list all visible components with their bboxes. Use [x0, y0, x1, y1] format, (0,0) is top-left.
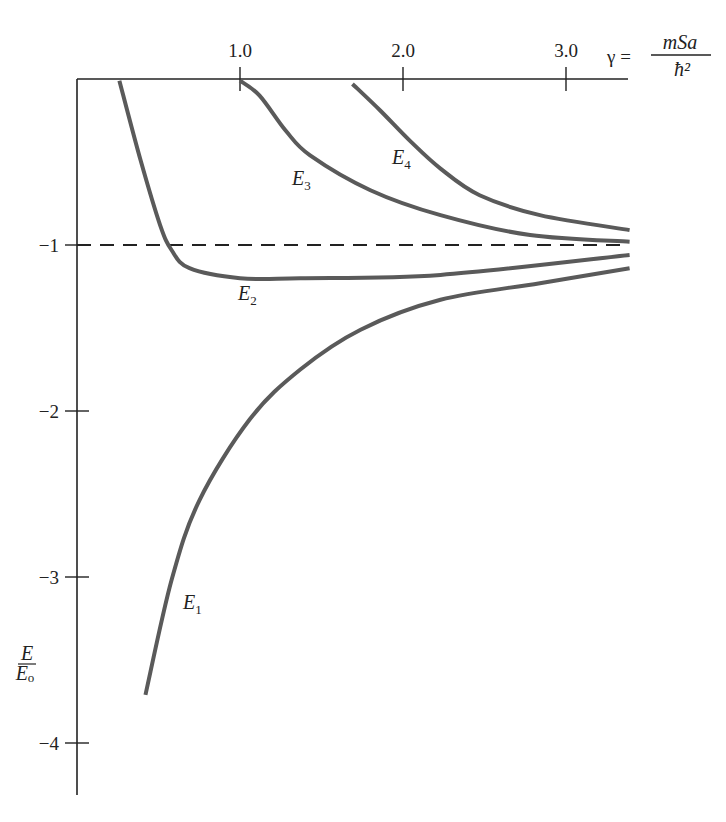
curve-e3	[240, 81, 630, 242]
curve-label-e2: E2	[237, 282, 257, 308]
y-label-numerator: E	[20, 642, 33, 664]
x-tick-label: 2.0	[391, 40, 415, 61]
x-tick-label: 3.0	[554, 40, 578, 61]
curve-labels: E1E2E3E4	[182, 146, 411, 617]
curve-label-e1: E1	[182, 591, 202, 617]
y-tick-label: −2	[39, 401, 59, 422]
y-tick-label: −3	[39, 567, 59, 588]
x-ticks: 1.02.03.0	[228, 40, 578, 91]
y-ticks: −1−2−3−4	[39, 235, 89, 754]
curve-e2	[119, 81, 629, 279]
gamma-lhs: γ =	[606, 46, 631, 67]
gamma-denominator: ħ²	[674, 58, 691, 80]
y-axis-label: E Eo	[15, 642, 36, 685]
axes	[77, 79, 628, 795]
y-label-denominator: Eo	[15, 662, 35, 685]
x-tick-label: 1.0	[228, 40, 252, 61]
curve-e1	[145, 268, 629, 695]
x-axis-label: γ = mSa ħ²	[606, 31, 711, 80]
energy-levels-chart: 1.02.03.0 −1−2−3−4 E1E2E3E4 γ = mSa ħ² E…	[0, 0, 726, 822]
gamma-numerator: mSa	[663, 31, 697, 53]
curve-label-e3: E3	[291, 167, 311, 193]
y-tick-label: −1	[39, 235, 59, 256]
curve-label-e4: E4	[391, 146, 411, 172]
y-tick-label: −4	[39, 733, 60, 754]
